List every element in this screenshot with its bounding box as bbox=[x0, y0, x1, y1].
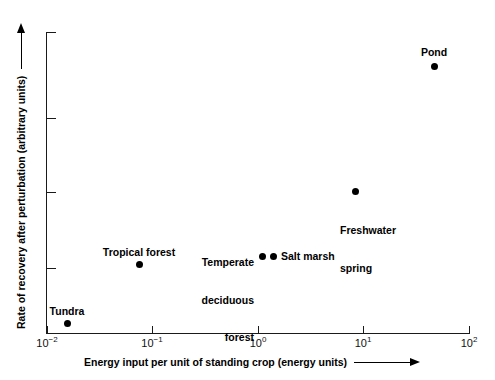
y-axis-title: Rate of recovery after perturbation (arb… bbox=[15, 19, 27, 329]
data-label-pond: Pond bbox=[421, 46, 447, 59]
x-axis-tick bbox=[152, 326, 153, 334]
data-label-tundra: Tundra bbox=[50, 305, 85, 318]
y-axis-tick bbox=[47, 118, 56, 119]
data-label-freshwater-spring: Freshwater spring bbox=[340, 199, 396, 299]
data-label-line: deciduous bbox=[194, 294, 254, 307]
x-axis-title: Energy input per unit of standing crop (… bbox=[84, 356, 420, 368]
data-label-line: Freshwater bbox=[340, 224, 396, 237]
data-point-tundra bbox=[64, 320, 71, 327]
x-axis-tick bbox=[258, 326, 259, 334]
x-axis-tick bbox=[469, 326, 470, 334]
x-axis-title-text: Energy input per unit of standing crop (… bbox=[84, 356, 347, 368]
data-label-salt-marsh: Salt marsh bbox=[281, 250, 335, 263]
data-point-pond bbox=[431, 63, 438, 70]
data-label-line: Temperate bbox=[194, 256, 254, 269]
y-axis-tick bbox=[47, 32, 56, 33]
y-axis-title-text: Rate of recovery after perturbation (arb… bbox=[15, 76, 27, 329]
x-axis-tick-label: 10−2 bbox=[36, 337, 57, 349]
x-axis-tick-label: 101 bbox=[355, 337, 372, 349]
data-label-tropical-forest: Tropical forest bbox=[103, 246, 175, 259]
data-label-temperate-deciduous-forest: Temperate deciduous forest bbox=[194, 231, 254, 369]
y-axis-tick bbox=[47, 192, 56, 193]
data-point-temperate-deciduous-forest bbox=[259, 253, 266, 260]
x-axis-tick-label: 102 bbox=[461, 337, 478, 349]
y-axis-tick bbox=[47, 268, 56, 269]
arrow-right-icon bbox=[354, 358, 420, 367]
data-point-salt-marsh bbox=[270, 253, 277, 260]
x-axis-tick bbox=[363, 326, 364, 334]
data-point-freshwater-spring bbox=[352, 188, 359, 195]
arrow-up-icon bbox=[17, 23, 26, 69]
data-point-tropical-forest bbox=[136, 261, 143, 268]
y-axis-line bbox=[46, 32, 47, 334]
x-axis-tick-label: 10−1 bbox=[141, 337, 162, 349]
data-label-line: forest bbox=[194, 331, 254, 344]
x-axis-tick bbox=[47, 326, 48, 334]
scatter-plot-figure: 10−2 10−1 100 101 102 Tundra Tropical fo… bbox=[0, 0, 495, 380]
data-label-line: spring bbox=[340, 262, 396, 275]
